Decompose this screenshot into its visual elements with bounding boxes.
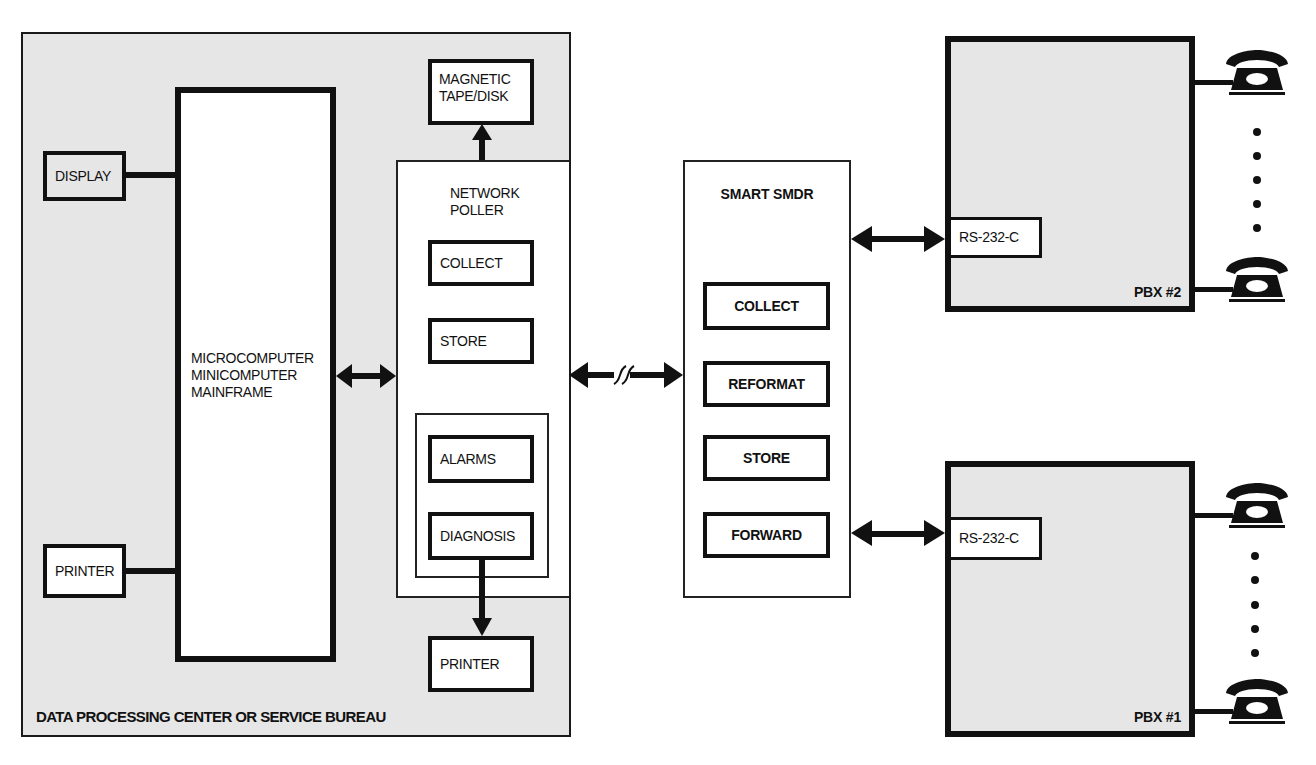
- telephone-icon: [1226, 483, 1288, 528]
- poller-store-box: STORE: [428, 318, 534, 364]
- poller-store-label: STORE: [440, 333, 486, 350]
- telephone-icon: [1226, 679, 1288, 724]
- poller-diagnosis-box: DIAGNOSIS: [428, 512, 534, 560]
- magnetic-tape-disk-box: MAGNETIC TAPE/DISK: [428, 59, 534, 125]
- display-box: DISPLAY: [43, 151, 126, 201]
- magnetic-line: MAGNETIC: [439, 71, 530, 88]
- vertical-ellipsis-icon: [1253, 128, 1261, 232]
- computer-line: MAINFRAME: [191, 384, 314, 401]
- data-center-label: DATA PROCESSING CENTER OR SERVICE BUREAU: [36, 708, 386, 725]
- pbx1-box: RS-232-C PBX #1: [945, 461, 1195, 737]
- smdr-store-label: STORE: [743, 450, 790, 466]
- poller-diagnosis-label: DIAGNOSIS: [440, 528, 515, 545]
- printer-left-label: PRINTER: [55, 563, 114, 580]
- network-poller-title: NETWORK POLLER: [450, 185, 519, 219]
- smdr-reformat-label: REFORMAT: [728, 376, 805, 392]
- printer-bottom-label: PRINTER: [440, 656, 499, 673]
- smdr-forward-label: FORWARD: [731, 527, 802, 543]
- smdr-store-box: STORE: [703, 435, 830, 481]
- computer-box: MICROCOMPUTER MINICOMPUTER MAINFRAME: [175, 87, 336, 662]
- pbx2-label: PBX #2: [1134, 284, 1181, 300]
- printer-bottom-box: PRINTER: [428, 636, 534, 692]
- poller-collect-label: COLLECT: [440, 255, 502, 272]
- telephone-icon: [1226, 50, 1288, 95]
- smdr-collect-label: COLLECT: [734, 298, 799, 314]
- pbx2-port-label: RS-232-C: [959, 229, 1019, 246]
- telephone-icon: [1226, 257, 1288, 302]
- poller-collect-box: COLLECT: [428, 240, 534, 286]
- poller-title-line: NETWORK: [450, 185, 519, 202]
- smdr-reformat-box: REFORMAT: [703, 361, 830, 407]
- computer-line: MICROCOMPUTER: [191, 350, 314, 367]
- pbx2-box: RS-232-C PBX #2: [945, 36, 1195, 312]
- computer-label: MICROCOMPUTER MINICOMPUTER MAINFRAME: [191, 350, 314, 401]
- display-label: DISPLAY: [55, 168, 111, 185]
- pbx1-port-label: RS-232-C: [959, 530, 1019, 547]
- pbx2-rs232-port: RS-232-C: [951, 217, 1042, 258]
- vertical-ellipsis-icon: [1251, 552, 1259, 657]
- poller-title-line: POLLER: [450, 202, 519, 219]
- poller-alarms-label: ALARMS: [440, 451, 496, 468]
- smdr-forward-box: FORWARD: [703, 512, 830, 558]
- smdr-collect-box: COLLECT: [703, 282, 830, 330]
- computer-line: MINICOMPUTER: [191, 367, 314, 384]
- smart-smdr-title: SMART SMDR: [685, 186, 849, 202]
- pbx1-label: PBX #1: [1134, 709, 1181, 725]
- printer-left-box: PRINTER: [43, 544, 126, 598]
- poller-alarms-box: ALARMS: [428, 435, 534, 483]
- pbx1-rs232-port: RS-232-C: [951, 517, 1042, 560]
- magnetic-line: TAPE/DISK: [439, 88, 530, 105]
- line-break-squiggle-icon: [569, 362, 683, 388]
